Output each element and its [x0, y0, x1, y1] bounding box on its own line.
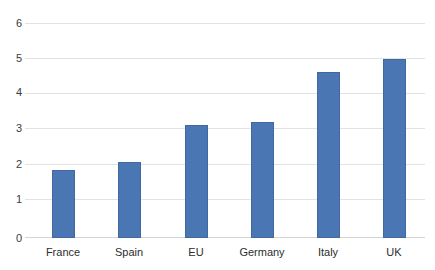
bar-eu[interactable] — [185, 125, 208, 238]
x-axis-tick-label-france: France — [46, 245, 80, 259]
plot-area — [25, 23, 425, 238]
y-axis-tick-label: 2 — [6, 159, 22, 170]
y-axis-tick-label: 3 — [6, 123, 22, 134]
bar-chart: 6 5 4 3 2 1 0 France Spain EU Germany It… — [0, 0, 435, 270]
x-axis-labels: France Spain EU Germany Italy UK — [25, 245, 425, 265]
bar-spain[interactable] — [118, 162, 141, 238]
bars-layer — [25, 23, 425, 238]
y-axis-tick-label: 4 — [6, 87, 22, 98]
y-axis-tick-label: 1 — [6, 194, 22, 205]
bar-italy[interactable] — [317, 72, 340, 238]
x-axis-tick-label-uk: UK — [386, 245, 401, 259]
bar-france[interactable] — [52, 170, 75, 238]
y-axis-tick-label: 0 — [6, 233, 22, 244]
x-axis-tick-label-italy: Italy — [318, 245, 338, 259]
x-axis-tick-label-eu: EU — [188, 245, 203, 259]
y-axis-tick-label: 6 — [6, 18, 22, 29]
y-axis-tick-label: 5 — [6, 53, 22, 64]
x-axis-tick-label-spain: Spain — [115, 245, 143, 259]
bar-uk[interactable] — [383, 59, 406, 238]
x-axis-tick-label-germany: Germany — [239, 245, 284, 259]
bar-germany[interactable] — [251, 122, 274, 238]
